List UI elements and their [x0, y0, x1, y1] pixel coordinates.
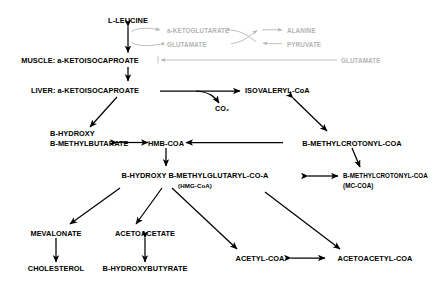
arrow-hmgcoa-to-acetylcoa	[172, 188, 237, 249]
node-acetoacetyl-coa: ACETOACETYL-COA	[338, 254, 413, 264]
node-glutamate-cycle: GLUTAMATE	[167, 40, 207, 50]
node-acetyl-coa: ACETYL-COA	[236, 254, 285, 264]
node-leucine: L-LEUCINE	[108, 16, 148, 26]
arrow-liver-to-hmb	[90, 97, 117, 127]
node-hydroxy-methylbutarate-line1: B-HYDROXY	[50, 129, 95, 139]
node-methylcrotonyl-coa: B-METHYLCROTONYL-COA	[302, 139, 401, 149]
node-mc-coa-line2: (MC-COA)	[343, 181, 373, 191]
node-glutamate-efflux: GLUTAMATE	[341, 56, 381, 66]
node-hmb-coa: HMB-COA	[148, 139, 184, 149]
node-hmg-coa-line2: (HMG-CoA)	[178, 181, 212, 191]
arrow-mccoa-to-acetoacetylcoa	[265, 192, 340, 249]
node-hydroxy-methylbutarate-line2: B-METHYLBUTARATE	[50, 139, 129, 149]
node-alanine: ALANINE	[287, 26, 316, 36]
faded-glutamate-efflux-arrow	[158, 56, 337, 64]
node-hmg-coa-line1: B-HYDROXY B-METHYLGLUTARYL-CO-A	[122, 171, 269, 181]
arrow-hmgcoa-to-mevalonate	[70, 188, 120, 224]
node-muscle-ketoisocaproate: MUSCLE: a-KETOISOCAPROATE	[21, 56, 139, 66]
node-co2: CO₂	[215, 104, 229, 114]
node-cholesterol: CHOLESTEROL	[28, 264, 84, 274]
arrow-co2-branch	[196, 91, 219, 103]
node-hydroxybutyrate: B-HYDROXYBUTYRATE	[103, 264, 188, 274]
node-ketoglutarate: a-KETOGLUTARATE	[167, 26, 229, 36]
node-isovaleryl-coa: ISOVALERYL-CoA	[245, 86, 310, 96]
node-mc-coa-line1: B-METHYLCROTONYL-COA	[343, 171, 428, 181]
node-liver-ketoisocaproate: LIVER: a-KETOISOCAPROATE	[31, 86, 139, 96]
node-acetoacetate: ACETOACETATE	[115, 229, 175, 239]
arrow-methylcrotonyl-to-mccoa	[352, 148, 360, 167]
node-mevalonate: MEVALONATE	[30, 229, 81, 239]
arrow-hmgcoa-to-acetoacetate	[136, 188, 162, 224]
pathway-diagram: L-LEUCINE a-KETOGLUTARATE GLUTAMATE ALAN…	[0, 0, 448, 292]
arrow-isovaleryl-methylcrotonyl	[293, 98, 327, 131]
node-pyruvate: PYRUVATE	[287, 40, 321, 50]
